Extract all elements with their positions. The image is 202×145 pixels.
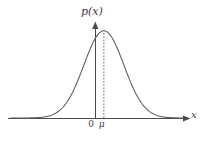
gaussian-density-figure: p(x) x 0 μ	[0, 0, 202, 145]
gaussian-curve	[11, 31, 184, 118]
y-axis-label: p(x)	[81, 6, 103, 17]
y-axis-arrow-icon	[92, 22, 98, 30]
x-axis-arrow-icon	[183, 115, 191, 121]
origin-tick-label: 0	[88, 120, 94, 129]
mean-tick-label: μ	[99, 120, 105, 129]
x-axis-label: x	[191, 110, 197, 120]
